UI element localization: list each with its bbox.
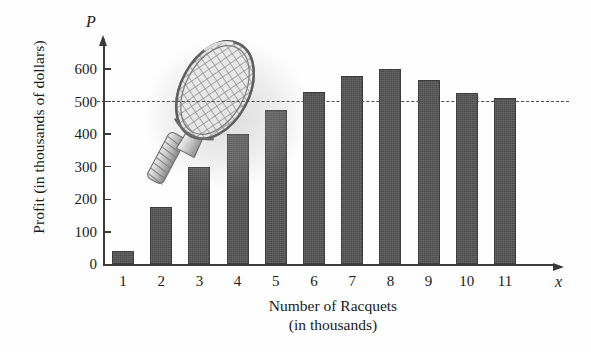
y-tick-label: 0	[90, 256, 98, 273]
bar-8	[379, 69, 401, 264]
x-axis-title-line1: Number of Racquets	[103, 296, 563, 315]
x-axis-variable-symbol: x	[555, 273, 562, 291]
x-tick-label-7: 7	[348, 273, 356, 290]
x-axis-title-line2: (in thousands)	[103, 315, 563, 334]
x-axis-title: Number of Racquets (in thousands)	[103, 296, 563, 334]
x-tick-label-5: 5	[272, 273, 280, 290]
reference-line-500	[97, 101, 569, 102]
bar-1	[112, 251, 134, 264]
x-tick-label-4: 4	[234, 273, 242, 290]
x-tick-label-2: 2	[157, 273, 165, 290]
x-tick-label-11: 11	[498, 273, 512, 290]
y-tick-mark	[104, 68, 111, 70]
racquet-glow	[145, 40, 310, 190]
bar-11	[494, 98, 516, 265]
x-tick-label-6: 6	[310, 273, 318, 290]
x-tick-label-9: 9	[425, 273, 433, 290]
y-axis-title: Profit (in thousands of dollars)	[30, 12, 48, 262]
y-tick-label: 200	[75, 191, 98, 208]
y-tick-mark	[104, 166, 111, 168]
x-tick-label-8: 8	[387, 273, 395, 290]
x-tick-label-3: 3	[196, 273, 204, 290]
bar-10	[456, 93, 478, 264]
x-axis-arrow-icon	[553, 263, 564, 271]
y-tick-label: 400	[75, 126, 98, 143]
y-tick-label: 300	[75, 158, 98, 175]
y-tick-mark	[104, 231, 111, 233]
y-tick-label: 600	[75, 60, 98, 77]
chart-figure: Profit (in thousands of dollars) P x 010…	[0, 0, 591, 352]
y-axis-arrow-icon	[99, 35, 107, 46]
bar-7	[341, 76, 363, 264]
bar-2	[150, 207, 172, 264]
x-tick-label-1: 1	[119, 273, 127, 290]
y-tick-label: 100	[75, 223, 98, 240]
y-tick-mark	[104, 133, 111, 135]
y-tick-label: 500	[75, 93, 98, 110]
y-tick-mark	[104, 199, 111, 201]
x-tick-label-10: 10	[459, 273, 474, 290]
y-axis-variable-symbol: P	[86, 13, 96, 31]
x-axis-line	[103, 264, 555, 266]
bar-9	[418, 80, 440, 264]
